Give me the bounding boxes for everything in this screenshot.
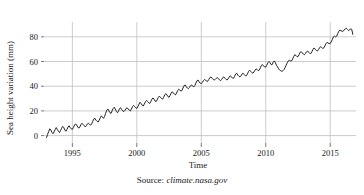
sea-level-line-series (47, 28, 353, 137)
y-tick-label: 80 (30, 32, 39, 42)
x-tick-label: 1995 (64, 148, 81, 158)
x-tick-label: 2015 (322, 148, 339, 158)
y-tick-label: 40 (30, 81, 39, 91)
source-url: climate.nasa.gov (166, 175, 227, 185)
x-tick-label: 2005 (193, 148, 210, 158)
x-axis-title: Time (189, 160, 208, 170)
x-tick-label: 2000 (128, 148, 145, 158)
y-tick-label: 20 (30, 106, 39, 116)
y-tick-label: 60 (30, 57, 39, 67)
sea-level-chart-figure: 02040608019952000200520102015 Sea height… (0, 0, 364, 195)
x-tick-label: 2010 (257, 148, 274, 158)
y-axis-title: Sea height variation (mm) (5, 41, 15, 135)
y-tick-label: 0 (34, 131, 38, 141)
axis-tick-labels: 02040608019952000200520102015 (30, 32, 339, 158)
chart-plot-area: 02040608019952000200520102015 Sea height… (0, 0, 364, 175)
source-caption: Source: climate.nasa.gov (0, 175, 364, 185)
source-label: Source: (137, 175, 165, 185)
axis-ticks (41, 37, 330, 147)
